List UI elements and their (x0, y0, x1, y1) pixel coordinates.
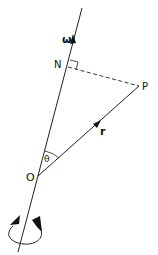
omega-label: ω (62, 33, 72, 46)
rotation-sense-ellipse (9, 226, 42, 244)
rotation-arrow-left-icon (10, 215, 20, 225)
rotation-vector-diagram: ω N P r θ O (0, 0, 158, 255)
vector-r-label: r (100, 125, 106, 138)
position-vector-r (38, 86, 139, 176)
point-n-label: N (54, 59, 61, 70)
rotation-arrow-right-icon (32, 216, 42, 232)
origin-o-label: O (26, 171, 35, 184)
perpendicular-dashed-line (68, 67, 139, 86)
rotation-axis (18, 8, 82, 252)
right-angle-marker (70, 60, 78, 70)
theta-label: θ (44, 154, 50, 164)
point-p-label: P (142, 81, 148, 92)
